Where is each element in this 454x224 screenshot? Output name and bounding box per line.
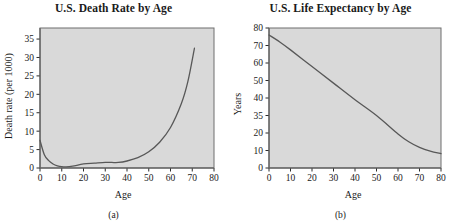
chart-title-death-rate: U.S. Death Rate by Age (0, 2, 227, 14)
y-tick-label: 0 (29, 163, 34, 173)
y-tick-label: 20 (254, 128, 264, 138)
x-tick-label: 20 (79, 173, 89, 183)
y-tick-label: 10 (254, 146, 264, 156)
y-tick-label: 40 (254, 93, 264, 103)
plot-background-a (40, 28, 214, 168)
y-tick-label: 30 (25, 53, 35, 63)
y-tick-label: 70 (254, 41, 264, 51)
x-tick-labels-a: 01020304050607080 (38, 173, 219, 183)
plot-background-b (269, 28, 441, 168)
x-axis-title-a: Age (115, 189, 132, 200)
y-tick-label: 60 (254, 58, 264, 68)
y-tick-label: 35 (254, 111, 264, 121)
y-tick-label: 10 (25, 127, 35, 137)
x-tick-label: 70 (415, 173, 425, 183)
x-tick-label: 30 (329, 173, 339, 183)
x-tick-label: 80 (209, 173, 219, 183)
y-tick-label: 5 (29, 145, 34, 155)
y-tick-label: 35 (25, 34, 35, 44)
x-tick-label: 10 (57, 173, 67, 183)
x-tick-label: 40 (122, 173, 132, 183)
y-tick-label: 80 (254, 23, 264, 33)
y-tick-label: 20 (25, 90, 35, 100)
x-tick-label: 70 (188, 173, 198, 183)
x-tick-labels-b: 01020304050607080 (267, 173, 446, 183)
panel-caption-b: (b) (227, 210, 454, 220)
line-chart-life-expectancy: 01020304050607080 01020354050607080 Age … (227, 16, 454, 202)
y-axis-title-b: Years (232, 93, 243, 115)
x-tick-label: 10 (286, 173, 296, 183)
y-axis-title-a: Death rate (per 1000) (3, 53, 15, 139)
x-tick-label: 50 (144, 173, 154, 183)
x-tick-label: 60 (166, 173, 176, 183)
x-tick-label: 80 (436, 173, 446, 183)
chart-panel-death-rate: U.S. Death Rate by Age 01020304050607080… (0, 0, 227, 224)
figure-two-panel-charts: U.S. Death Rate by Age 01020304050607080… (0, 0, 454, 224)
x-axis-title-b: Age (345, 189, 362, 200)
x-tick-label: 30 (101, 173, 111, 183)
y-tick-labels-b: 01020354050607080 (254, 23, 264, 173)
x-tick-label: 20 (307, 173, 317, 183)
y-tick-label: 25 (25, 71, 35, 81)
y-tick-label: 15 (25, 108, 35, 118)
x-tick-label: 60 (393, 173, 403, 183)
chart-title-life-expectancy: U.S. Life Expectancy by Age (227, 2, 454, 14)
panel-caption-a: (a) (0, 210, 227, 220)
x-tick-label: 40 (350, 173, 360, 183)
x-tick-label: 0 (267, 173, 272, 183)
y-tick-label: 50 (254, 76, 264, 86)
x-tick-label: 0 (38, 173, 43, 183)
x-tick-label: 50 (372, 173, 382, 183)
y-tick-labels-a: 05101520253035 (25, 34, 35, 173)
line-chart-death-rate: 01020304050607080 05101520253035 Age Dea… (0, 16, 227, 202)
y-tick-label: 0 (258, 163, 263, 173)
chart-panel-life-expectancy: U.S. Life Expectancy by Age 010203040506… (227, 0, 454, 224)
